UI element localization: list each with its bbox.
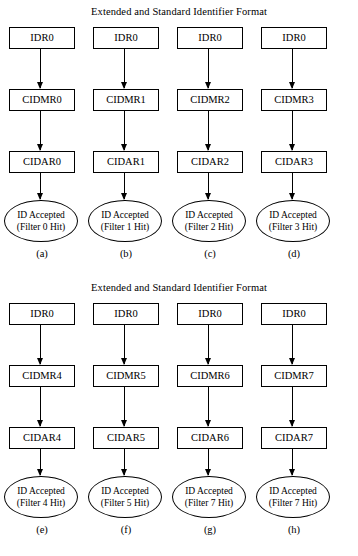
- cidar-register-box: CIDAR2: [177, 151, 243, 173]
- filter-hit-label: (Filter 7 Hit): [257, 498, 329, 510]
- cidmr-register-box: CIDMR2: [177, 89, 243, 111]
- flow-arrow-2-icon: [40, 110, 41, 150]
- id-accepted-terminal: ID Accepted(Filter 1 Hit): [88, 200, 162, 242]
- subfigure-caption: (f): [84, 524, 168, 535]
- subfigure-caption: (e): [0, 524, 84, 535]
- flow-arrow-3-icon: [208, 448, 209, 475]
- id-accepted-label: ID Accepted: [89, 486, 161, 498]
- cidmr-register-box: CIDMR4: [9, 365, 75, 387]
- panel-title: Extended and Standard Identifier Format: [0, 6, 358, 17]
- filter-hit-label: (Filter 5 Hit): [89, 498, 161, 510]
- subfigure-caption: (c): [168, 248, 252, 259]
- flow-arrow-1-icon: [124, 48, 125, 88]
- cidar-register-box: CIDAR5: [93, 427, 159, 449]
- id-accepted-terminal: ID Accepted(Filter 0 Hit): [4, 200, 78, 242]
- idr-register-box: IDR0: [93, 27, 159, 49]
- flow-arrow-1-icon: [292, 324, 293, 364]
- cidar-register-box: CIDAR4: [9, 427, 75, 449]
- flow-arrow-3-icon: [124, 448, 125, 475]
- flow-arrow-2-icon: [124, 110, 125, 150]
- id-accepted-terminal: ID Accepted(Filter 4 Hit): [4, 476, 78, 518]
- filter-hit-label: (Filter 1 Hit): [89, 222, 161, 234]
- flow-arrow-2-icon: [292, 110, 293, 150]
- subfigure-caption: (h): [252, 524, 336, 535]
- flow-arrow-1-icon: [208, 324, 209, 364]
- flow-arrow-3-icon: [292, 172, 293, 199]
- id-accepted-label: ID Accepted: [257, 486, 329, 498]
- flow-arrow-3-icon: [40, 172, 41, 199]
- filter-hit-label: (Filter 2 Hit): [173, 222, 245, 234]
- cidar-register-box: CIDAR6: [177, 427, 243, 449]
- id-accepted-terminal: ID Accepted(Filter 7 Hit): [172, 476, 246, 518]
- cidmr-register-box: CIDMR3: [261, 89, 327, 111]
- subfigure-caption: (a): [0, 248, 84, 259]
- flow-arrow-1-icon: [292, 48, 293, 88]
- flow-arrow-1-icon: [40, 48, 41, 88]
- flow-arrow-1-icon: [124, 324, 125, 364]
- idr-register-box: IDR0: [93, 303, 159, 325]
- cidmr-register-box: CIDMR7: [261, 365, 327, 387]
- cidmr-register-box: CIDMR6: [177, 365, 243, 387]
- id-accepted-label: ID Accepted: [5, 486, 77, 498]
- idr-register-box: IDR0: [9, 27, 75, 49]
- filter-hit-label: (Filter 4 Hit): [5, 498, 77, 510]
- cidar-register-box: CIDAR3: [261, 151, 327, 173]
- flow-arrow-1-icon: [208, 48, 209, 88]
- flow-arrow-1-icon: [40, 324, 41, 364]
- flow-arrow-3-icon: [124, 172, 125, 199]
- panel-title: Extended and Standard Identifier Format: [0, 282, 358, 293]
- flow-arrow-2-icon: [292, 386, 293, 426]
- idr-register-box: IDR0: [9, 303, 75, 325]
- cidar-register-box: CIDAR1: [93, 151, 159, 173]
- idr-register-box: IDR0: [261, 27, 327, 49]
- flow-arrow-3-icon: [292, 448, 293, 475]
- id-accepted-terminal: ID Accepted(Filter 5 Hit): [88, 476, 162, 518]
- subfigure-caption: (d): [252, 248, 336, 259]
- cidmr-register-box: CIDMR1: [93, 89, 159, 111]
- flow-arrow-2-icon: [208, 110, 209, 150]
- cidmr-register-box: CIDMR5: [93, 365, 159, 387]
- id-accepted-label: ID Accepted: [257, 210, 329, 222]
- id-accepted-terminal: ID Accepted(Filter 7 Hit): [256, 476, 330, 518]
- id-accepted-label: ID Accepted: [5, 210, 77, 222]
- flow-arrow-2-icon: [208, 386, 209, 426]
- id-accepted-label: ID Accepted: [173, 486, 245, 498]
- filter-hit-label: (Filter 7 Hit): [173, 498, 245, 510]
- id-accepted-terminal: ID Accepted(Filter 2 Hit): [172, 200, 246, 242]
- idr-register-box: IDR0: [261, 303, 327, 325]
- id-accepted-label: ID Accepted: [173, 210, 245, 222]
- cidar-register-box: CIDAR7: [261, 427, 327, 449]
- id-accepted-terminal: ID Accepted(Filter 3 Hit): [256, 200, 330, 242]
- idr-register-box: IDR0: [177, 303, 243, 325]
- flow-arrow-3-icon: [208, 172, 209, 199]
- flow-arrow-2-icon: [40, 386, 41, 426]
- idr-register-box: IDR0: [177, 27, 243, 49]
- id-accepted-label: ID Accepted: [89, 210, 161, 222]
- flow-arrow-2-icon: [124, 386, 125, 426]
- filter-hit-label: (Filter 3 Hit): [257, 222, 329, 234]
- subfigure-caption: (g): [168, 524, 252, 535]
- flow-arrow-3-icon: [40, 448, 41, 475]
- subfigure-caption: (b): [84, 248, 168, 259]
- filter-hit-label: (Filter 0 Hit): [5, 222, 77, 234]
- cidar-register-box: CIDAR0: [9, 151, 75, 173]
- cidmr-register-box: CIDMR0: [9, 89, 75, 111]
